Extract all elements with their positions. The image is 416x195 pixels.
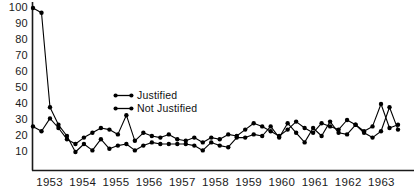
data-point bbox=[319, 134, 323, 138]
data-series-layer bbox=[31, 6, 400, 154]
data-point bbox=[226, 145, 230, 149]
data-point bbox=[116, 132, 120, 136]
data-point bbox=[302, 126, 306, 130]
data-point bbox=[294, 131, 298, 135]
data-point bbox=[167, 132, 171, 136]
axis-lines bbox=[32, 2, 414, 171]
data-point bbox=[218, 137, 222, 141]
data-point bbox=[141, 143, 145, 147]
data-point bbox=[107, 127, 111, 131]
data-point bbox=[268, 129, 272, 133]
data-point bbox=[39, 11, 43, 15]
legend-label-not-justified: Not Justified bbox=[137, 102, 197, 115]
series-not-justified bbox=[31, 6, 400, 154]
data-point bbox=[260, 134, 264, 138]
data-point bbox=[175, 137, 179, 141]
data-point bbox=[48, 116, 52, 120]
data-point bbox=[150, 140, 154, 144]
data-point bbox=[201, 140, 205, 144]
data-point bbox=[175, 142, 179, 146]
data-point bbox=[56, 123, 60, 127]
data-point bbox=[99, 126, 103, 130]
data-point bbox=[73, 150, 77, 154]
legend-label-justified: Justified bbox=[137, 89, 177, 102]
data-point bbox=[39, 129, 43, 133]
data-point bbox=[116, 143, 120, 147]
series-line bbox=[33, 104, 398, 144]
data-point bbox=[31, 6, 35, 10]
x-axis-tick-label: 1961 bbox=[302, 176, 329, 189]
x-axis-tick-label: 1960 bbox=[268, 176, 295, 189]
data-point bbox=[209, 140, 213, 144]
data-point bbox=[235, 135, 239, 139]
data-point bbox=[260, 124, 264, 128]
data-point bbox=[226, 132, 230, 136]
data-point bbox=[65, 134, 69, 138]
data-point bbox=[31, 124, 35, 128]
data-point bbox=[141, 131, 145, 135]
data-point bbox=[133, 148, 137, 152]
data-point bbox=[285, 121, 289, 125]
data-point bbox=[133, 139, 137, 143]
legend-marker-icon bbox=[113, 104, 134, 113]
data-point bbox=[319, 121, 323, 125]
legend-item-not-justified: Not Justified bbox=[113, 102, 197, 115]
data-point bbox=[379, 102, 383, 106]
data-point bbox=[370, 124, 374, 128]
x-axis-tick-label: 1955 bbox=[103, 176, 130, 189]
chart-container: 102030405060708090100 Justified Not Just… bbox=[0, 0, 416, 195]
data-point bbox=[201, 148, 205, 152]
data-point bbox=[192, 143, 196, 147]
data-point bbox=[336, 131, 340, 135]
data-point bbox=[345, 132, 349, 136]
data-point bbox=[362, 131, 366, 135]
series-justified bbox=[31, 102, 400, 146]
data-point bbox=[294, 119, 298, 123]
legend-item-justified: Justified bbox=[113, 89, 197, 102]
data-point bbox=[218, 143, 222, 147]
data-point bbox=[252, 121, 256, 125]
data-point bbox=[48, 105, 52, 109]
data-point bbox=[192, 135, 196, 139]
legend-marker-icon bbox=[113, 91, 134, 100]
data-point bbox=[82, 135, 86, 139]
data-point bbox=[252, 132, 256, 136]
data-point bbox=[99, 137, 103, 141]
data-point bbox=[73, 142, 77, 146]
x-axis-tick-label: 1957 bbox=[169, 176, 196, 189]
data-point bbox=[285, 127, 289, 131]
data-point bbox=[158, 142, 162, 146]
x-axis-tick-label: 1956 bbox=[136, 176, 163, 189]
data-point bbox=[124, 142, 128, 146]
data-point bbox=[353, 123, 357, 127]
data-point bbox=[209, 135, 213, 139]
x-axis-tick-label: 1958 bbox=[202, 176, 229, 189]
data-point bbox=[328, 119, 332, 123]
data-point bbox=[387, 105, 391, 109]
data-point bbox=[370, 135, 374, 139]
data-point bbox=[243, 127, 247, 131]
data-point bbox=[82, 142, 86, 146]
x-axis-tick-label: 1954 bbox=[69, 176, 96, 189]
chart-legend: Justified Not Justified bbox=[113, 89, 197, 115]
data-point bbox=[158, 135, 162, 139]
x-axis-tick-label: 1962 bbox=[335, 176, 362, 189]
series-line bbox=[33, 8, 398, 152]
x-axis-tick-label: 1963 bbox=[368, 176, 395, 189]
data-point bbox=[90, 148, 94, 152]
data-point bbox=[167, 142, 171, 146]
plot-area bbox=[0, 0, 416, 195]
data-point bbox=[107, 147, 111, 151]
data-point bbox=[345, 118, 349, 122]
data-point bbox=[150, 134, 154, 138]
data-point bbox=[268, 124, 272, 128]
data-point bbox=[302, 140, 306, 144]
x-axis-tick-label: 1953 bbox=[36, 176, 63, 189]
data-point bbox=[243, 135, 247, 139]
x-axis-labels: 1953195419551956195719581959196019611962… bbox=[0, 176, 416, 193]
x-axis-tick-label: 1959 bbox=[235, 176, 262, 189]
data-point bbox=[387, 126, 391, 130]
data-point bbox=[311, 126, 315, 130]
data-point bbox=[379, 129, 383, 133]
data-point bbox=[90, 131, 94, 135]
